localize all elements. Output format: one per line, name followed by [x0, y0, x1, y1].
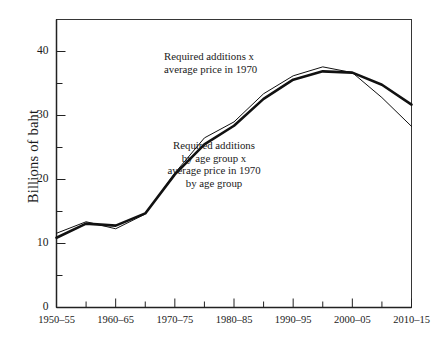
annotation-thick-series: Required additions by age group x averag… [167, 139, 260, 190]
y-tick-label: 10 [23, 236, 49, 248]
y-tick-label: 30 [23, 108, 49, 120]
y-tick-label: 40 [23, 44, 49, 56]
y-tick-label: 20 [23, 172, 49, 184]
y-tick-label: 0 [23, 300, 49, 312]
annotation-thin-series: Required additions x average price in 19… [164, 50, 257, 75]
y-axis-title: Billions of baht [25, 62, 42, 252]
x-tick-label: 2010–15 [377, 314, 435, 325]
